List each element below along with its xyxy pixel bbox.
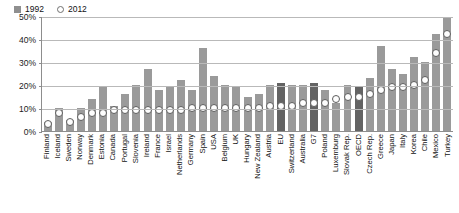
x-axis-tick-label: Hungary — [243, 134, 251, 163]
bar-group — [53, 17, 64, 131]
bar-group — [398, 17, 409, 131]
x-axis-tick-label: Slovak Rep. — [343, 134, 351, 175]
x-axis-label-slot: USA — [208, 134, 219, 213]
bar-group — [98, 17, 109, 131]
x-axis-label-slot: Slovak Rep. — [342, 134, 353, 213]
point-2012 — [188, 104, 196, 112]
x-axis-tick-label: Italy — [399, 134, 407, 148]
bar-group — [131, 17, 142, 131]
y-axis-tick-mark — [39, 17, 42, 18]
x-axis-tick-label: Belgium — [221, 134, 229, 161]
point-2012 — [155, 106, 163, 114]
bar-series-group — [42, 17, 453, 131]
bar-group — [86, 17, 97, 131]
x-axis-label-slot: Israel — [164, 134, 175, 213]
x-axis-label-slot: Slovenia — [130, 134, 141, 213]
bar-group — [109, 17, 120, 131]
x-axis-label-slot: Estonia — [97, 134, 108, 213]
bar-1992 — [399, 74, 407, 132]
x-axis-tick-label: Spain — [199, 134, 207, 153]
x-axis-tick-label: Luxemburg — [332, 134, 340, 172]
x-axis-label-slot: Australia — [297, 134, 308, 213]
gridline — [42, 86, 453, 87]
bar-1992 — [199, 48, 207, 131]
y-axis-tick-label: 30% — [19, 59, 36, 68]
x-axis-label-slot: Spain — [197, 134, 208, 213]
bar-group — [164, 17, 175, 131]
bar-group — [198, 17, 209, 131]
bar-group — [331, 17, 342, 131]
point-2012 — [355, 93, 363, 101]
x-axis-label-slot: New Zealand — [253, 134, 264, 213]
point-2012 — [366, 90, 374, 98]
x-axis-tick-label: Poland — [321, 134, 329, 158]
point-2012 — [66, 118, 74, 126]
bar-1992 — [244, 97, 252, 132]
bar-1992 — [255, 94, 263, 131]
x-axis-label-slot: Canada — [108, 134, 119, 213]
gridline — [42, 40, 453, 41]
x-axis-tick-label: Denmark — [87, 134, 95, 165]
x-axis-label-slot: Iceland — [52, 134, 63, 213]
x-axis-label-slot: Italy — [398, 134, 409, 213]
x-axis-label-slot: Greece — [375, 134, 386, 213]
x-axis-tick-label: Netherlands — [176, 134, 184, 175]
x-axis-tick-label: Estonia — [98, 134, 106, 159]
x-axis-label-slot: Portugal — [119, 134, 130, 213]
bar-group — [153, 17, 164, 131]
bar-group — [253, 17, 264, 131]
bar-group — [420, 17, 431, 131]
bar-group — [42, 17, 53, 131]
point-2012 — [144, 106, 152, 114]
x-axis-label-slot: Austria — [264, 134, 275, 213]
x-axis-tick-label: Portugal — [121, 134, 129, 162]
x-axis-tick-label: UK — [232, 134, 240, 145]
x-axis-label-slot: Belgium — [219, 134, 230, 213]
x-axis-tick-label: Turkey — [444, 134, 452, 157]
point-2012 — [255, 104, 263, 112]
x-axis-tick-label: EU — [277, 134, 285, 145]
bar-group — [142, 17, 153, 131]
x-axis-label-slot: Chile — [420, 134, 431, 213]
x-axis-tick-label: Norway — [76, 134, 84, 160]
x-axis-tick-label: Chile — [421, 134, 429, 151]
x-axis-tick-label: Australia — [299, 134, 307, 164]
bar-group — [309, 17, 320, 131]
plot-area — [41, 17, 453, 132]
y-axis-tick-label: 20% — [19, 82, 36, 91]
x-axis-tick-label: Israel — [165, 134, 173, 153]
x-axis-label-slot: Mexico — [431, 134, 442, 213]
x-axis-label-slot: EU — [275, 134, 286, 213]
x-axis-tick-label: Austria — [265, 134, 273, 158]
bar-group — [431, 17, 442, 131]
gridline — [42, 17, 453, 18]
x-axis-label-slot: Hungary — [242, 134, 253, 213]
x-axis-label-slot: Netherlands — [175, 134, 186, 213]
bar-1992 — [421, 62, 429, 131]
point-2012 — [44, 120, 52, 128]
x-axis-tick-label: New Zealand — [254, 134, 262, 179]
x-axis-tick-label: Iceland — [54, 134, 62, 159]
legend-item: 1992 — [14, 5, 44, 14]
x-axis-tick-label: Greece — [377, 134, 385, 159]
gridline — [42, 109, 453, 110]
x-axis-tick-label: Germany — [187, 134, 195, 165]
bar-group — [298, 17, 309, 131]
point-2012 — [244, 104, 252, 112]
x-axis-labels: FinlandIcelandSwedenNorwayDenmarkEstonia… — [41, 134, 453, 213]
bar-group — [120, 17, 131, 131]
x-axis-label-slot: Korea — [409, 134, 420, 213]
chart-legend: 19922012 — [14, 5, 87, 14]
x-axis-tick-label: Czech Rep. — [366, 134, 374, 174]
bar-group — [209, 17, 220, 131]
bar-1992 — [388, 69, 396, 131]
bar-group — [64, 17, 75, 131]
legend-circle-icon — [57, 6, 64, 13]
x-axis-tick-label: Switzerland — [288, 134, 296, 173]
x-axis-label-slot: UK — [230, 134, 241, 213]
y-axis-tick-mark — [39, 63, 42, 64]
bar-group — [231, 17, 242, 131]
x-axis-label-slot: Denmark — [86, 134, 97, 213]
bar-group — [75, 17, 86, 131]
legend-label: 2012 — [68, 5, 87, 14]
